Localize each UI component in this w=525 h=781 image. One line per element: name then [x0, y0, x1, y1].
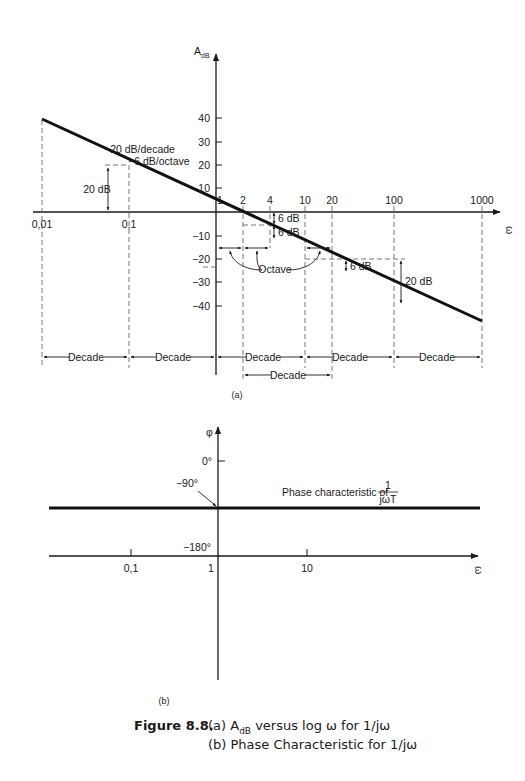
- plot-b: φ ω 0° −90° −180° 0,1 1 10 Phase charact…: [49, 426, 485, 706]
- figure-caption: Figure 8.8.: [134, 718, 214, 733]
- panel-label-a: (a): [232, 390, 243, 400]
- svg-text:10: 10: [301, 562, 313, 574]
- svg-text:1000: 1000: [470, 194, 494, 206]
- svg-text:−40: −40: [192, 300, 210, 312]
- svg-text:Decade: Decade: [270, 369, 306, 381]
- plot-b-y-axis-label: φ: [206, 426, 213, 438]
- caption-line-a-rest: versus log ω for 1/jω: [251, 718, 390, 733]
- svg-text:Decade: Decade: [68, 351, 104, 363]
- svg-text:2: 2: [240, 194, 246, 206]
- svg-text:1: 1: [208, 562, 214, 574]
- slope-label-octave: −6 dB/octave: [128, 155, 190, 167]
- svg-text:100: 100: [385, 194, 403, 206]
- delta-6db-3-label: 6 dB: [350, 260, 372, 272]
- decade-labels: Decade Decade Decade Decade Decade Decad…: [68, 350, 455, 381]
- caption-line-a: (a) AdB versus log ω for 1/jω: [208, 718, 390, 736]
- octave-label: Octave: [258, 263, 291, 275]
- plot-b-tick-180deg-label: −180°: [183, 541, 211, 553]
- svg-text:Decade: Decade: [332, 351, 368, 363]
- svg-text:20: 20: [198, 159, 210, 171]
- delta-20db-right-label: 20 dB: [405, 275, 432, 287]
- delta-20db-left-label: 20 dB: [83, 183, 110, 195]
- svg-text:Decade: Decade: [245, 351, 281, 363]
- slope-label-decade: −20 dB/decade: [104, 143, 175, 155]
- delta-6db-2-label: 6 dB: [278, 226, 300, 238]
- plot-a: AdB ω 40 30 20 10 −10 −20 −30 −40 0,01: [32, 45, 516, 400]
- plot-a-x-axis-label: ω: [504, 226, 516, 234]
- plot-b-tick-90deg-label: −90°: [176, 477, 198, 489]
- svg-text:10: 10: [299, 194, 311, 206]
- plot-a-guides: [42, 120, 482, 382]
- phase-frac-denominator: jωT: [379, 493, 398, 505]
- plot-b-tick-0deg-label: 0°: [202, 455, 212, 467]
- svg-text:20: 20: [326, 194, 338, 206]
- plot-a-y-axis-label: AdB: [194, 45, 210, 59]
- svg-text:Decade: Decade: [419, 351, 455, 363]
- svg-text:0,1: 0,1: [124, 562, 139, 574]
- svg-text:−30: −30: [192, 276, 210, 288]
- svg-text:40: 40: [198, 112, 210, 124]
- caption-line-a-sub: dB: [239, 726, 251, 736]
- plot-b-x-ticks: [131, 549, 307, 556]
- svg-text:−10: −10: [192, 230, 210, 242]
- panel-label-b: (b): [159, 696, 170, 706]
- svg-text:4: 4: [267, 194, 273, 206]
- svg-text:Decade: Decade: [155, 351, 191, 363]
- svg-text:−20: −20: [192, 253, 210, 265]
- caption-line-b: (b) Phase Characteristic for 1/jω: [208, 737, 417, 752]
- svg-text:30: 30: [198, 136, 210, 148]
- figure-number: Figure 8.8.: [134, 718, 214, 733]
- caption-line-b-text: (b) Phase Characteristic for 1/jω: [208, 737, 417, 752]
- phase-characteristic-label: Phase characteristic of: [282, 486, 388, 498]
- figure-canvas: AdB ω 40 30 20 10 −10 −20 −30 −40 0,01: [0, 0, 525, 781]
- plot-b-x-axis-label: ω: [473, 566, 485, 574]
- plot-b-90-pointer: [198, 491, 216, 506]
- delta-6db-1-label: 6 dB: [278, 212, 300, 224]
- phase-frac-numerator: 1: [385, 479, 391, 491]
- caption-line-a-text: (a) A: [208, 718, 239, 733]
